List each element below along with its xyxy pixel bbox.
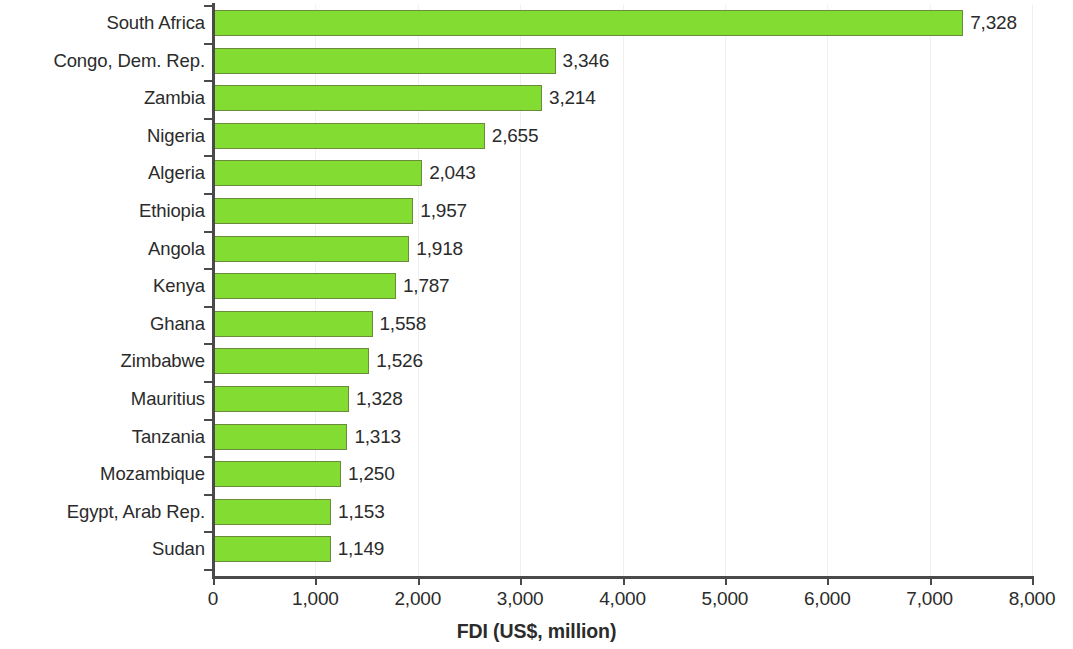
gridline [827, 5, 828, 576]
y-axis-tick [204, 569, 213, 571]
x-axis-tick [827, 576, 829, 585]
category-label: Angola [0, 238, 205, 260]
x-axis-tick-label: 5,000 [702, 588, 749, 610]
bar-row[interactable]: 1,149 [213, 536, 451, 562]
bar-value-label: 2,043 [429, 162, 476, 184]
category-label: Mauritius [0, 388, 205, 410]
bar[interactable] [213, 273, 396, 299]
bar[interactable] [213, 10, 963, 36]
y-axis-tick [204, 43, 213, 45]
bar-row[interactable]: 1,918 [213, 236, 529, 262]
bar[interactable] [213, 536, 331, 562]
bar-value-label: 1,153 [338, 501, 385, 523]
y-axis-tick [204, 193, 213, 195]
x-axis-tick [725, 576, 727, 585]
category-label: Nigeria [0, 125, 205, 147]
bar-value-label: 1,526 [376, 350, 423, 372]
bar[interactable] [213, 386, 349, 412]
category-label: Egypt, Arab Rep. [0, 501, 205, 523]
x-axis-tick-label: 0 [208, 588, 218, 610]
x-axis-tick [315, 576, 317, 585]
bar-row[interactable]: 2,655 [213, 123, 605, 149]
bar-row[interactable]: 1,313 [213, 424, 467, 450]
x-axis-title: FDI (US$, million) [0, 620, 1073, 643]
bar-row[interactable]: 1,558 [213, 311, 493, 337]
y-axis-tick [204, 531, 213, 533]
bar[interactable] [213, 461, 341, 487]
fdi-bar-chart: South AfricaCongo, Dem. Rep.ZambiaNigeri… [0, 0, 1073, 649]
bar[interactable] [213, 348, 369, 374]
bar-value-label: 1,787 [403, 275, 450, 297]
y-axis-tick [204, 268, 213, 270]
bar-value-label: 2,655 [492, 125, 539, 147]
bar-row[interactable]: 7,328 [213, 10, 1073, 36]
y-axis-tick [204, 306, 213, 308]
gridline [725, 5, 726, 576]
plot-area: 7,3283,3463,2142,6552,0431,9571,9181,787… [213, 5, 1073, 576]
bar-value-label: 1,250 [348, 463, 395, 485]
x-axis-tick [930, 576, 932, 585]
x-axis-tick [213, 576, 215, 585]
x-axis-tick-label: 2,000 [394, 588, 441, 610]
bar[interactable] [213, 424, 347, 450]
bar-row[interactable]: 1,153 [213, 499, 451, 525]
bar-row[interactable]: 3,214 [213, 85, 662, 111]
y-axis-tick [204, 456, 213, 458]
y-axis-tick [204, 343, 213, 345]
bar[interactable] [213, 48, 556, 74]
bar[interactable] [213, 160, 422, 186]
bar-row[interactable]: 1,957 [213, 198, 533, 224]
bar-value-label: 1,328 [356, 388, 403, 410]
x-axis-tick-label: 6,000 [804, 588, 851, 610]
bar-value-label: 1,957 [420, 200, 467, 222]
bar-row[interactable]: 1,787 [213, 273, 516, 299]
x-axis-tick-label: 1,000 [292, 588, 339, 610]
y-axis-tick [204, 80, 213, 82]
y-axis-tick [204, 231, 213, 233]
y-axis-tick [204, 5, 213, 7]
gridline [1032, 5, 1033, 576]
category-label: Zambia [0, 87, 205, 109]
x-axis-tick [623, 576, 625, 585]
bar[interactable] [213, 236, 409, 262]
bar-value-label: 1,313 [354, 426, 401, 448]
category-label: Mozambique [0, 463, 205, 485]
bar-value-label: 1,918 [416, 238, 463, 260]
x-axis-tick-label: 4,000 [599, 588, 646, 610]
gridline [930, 5, 931, 576]
category-label: Tanzania [0, 426, 205, 448]
bar-row[interactable]: 2,043 [213, 160, 542, 186]
x-axis-tick-label: 3,000 [497, 588, 544, 610]
x-axis-tick [1032, 576, 1034, 585]
category-label: South Africa [0, 12, 205, 34]
category-label: Ethiopia [0, 200, 205, 222]
bar-value-label: 1,149 [338, 538, 385, 560]
bar-value-label: 1,558 [380, 313, 427, 335]
y-axis-tick [204, 118, 213, 120]
bar-row[interactable]: 1,526 [213, 348, 489, 374]
bar[interactable] [213, 499, 331, 525]
y-axis-tick [204, 419, 213, 421]
y-axis-tick [204, 494, 213, 496]
x-axis-tick-label: 7,000 [906, 588, 953, 610]
y-axis-tick [204, 381, 213, 383]
category-label: Ghana [0, 313, 205, 335]
bar-row[interactable]: 1,250 [213, 461, 461, 487]
category-label: Congo, Dem. Rep. [0, 50, 205, 72]
category-label: Zimbabwe [0, 350, 205, 372]
bar-value-label: 3,214 [549, 87, 596, 109]
bar-row[interactable]: 3,346 [213, 48, 676, 74]
bar[interactable] [213, 85, 542, 111]
y-axis-tick [204, 155, 213, 157]
category-label: Sudan [0, 538, 205, 560]
bar-value-label: 7,328 [970, 12, 1017, 34]
x-axis-tick [418, 576, 420, 585]
bar[interactable] [213, 198, 413, 224]
y-axis-line [212, 3, 215, 578]
bar-value-label: 3,346 [563, 50, 610, 72]
bar[interactable] [213, 311, 373, 337]
bar[interactable] [213, 123, 485, 149]
x-axis-tick [520, 576, 522, 585]
x-axis-tick-label: 8,000 [1009, 588, 1056, 610]
bar-row[interactable]: 1,328 [213, 386, 469, 412]
